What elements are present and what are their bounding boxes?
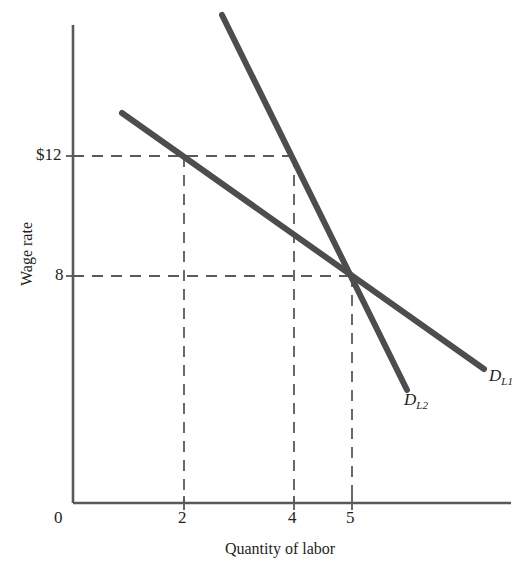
- curve-label-dl2-base: D: [404, 390, 416, 409]
- curve-label-dl1-base: D: [489, 366, 501, 385]
- chart-plot-area: [0, 0, 529, 577]
- y-axis-tick-label-12: $12: [36, 145, 62, 165]
- x-axis-tick-label-0: 0: [54, 508, 63, 528]
- y-axis-title: Wage rate: [18, 199, 36, 309]
- x-axis-tick-label-4: 4: [288, 508, 297, 528]
- curve-label-dl1: DL1: [489, 366, 513, 387]
- curve-label-dl2-sub: L2: [416, 399, 428, 411]
- x-axis-title: Quantity of labor: [185, 540, 375, 558]
- x-axis-tick-label-5: 5: [346, 508, 355, 528]
- curve-label-dl2: DL2: [404, 390, 428, 411]
- x-axis-tick-label-2: 2: [178, 508, 187, 528]
- chart-figure: $12 8 0 2 4 5 Wage rate Quantity of labo…: [0, 0, 529, 577]
- curve-label-dl1-sub: L1: [501, 375, 513, 387]
- y-axis-tick-label-8: 8: [55, 265, 64, 285]
- demand-curve-dl1: [122, 113, 484, 369]
